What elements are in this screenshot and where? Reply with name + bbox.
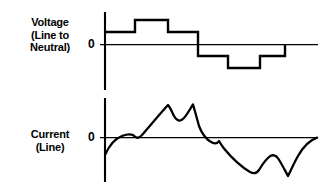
waveform-figure: Voltage (Line to Neutral) 0 Current (Lin… xyxy=(0,0,325,193)
current-waveform-trace xyxy=(105,105,317,177)
waveform-plot-area xyxy=(0,0,325,193)
